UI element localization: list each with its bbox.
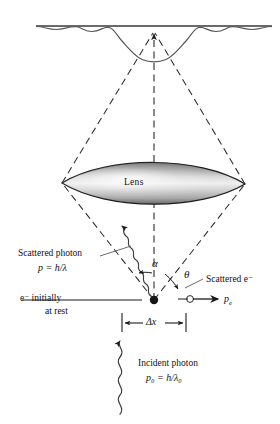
p-subscript: e	[229, 299, 232, 307]
ray-lens-right-to-apex	[155, 33, 245, 184]
theta-angle-label: θ	[184, 268, 189, 281]
alpha-angle-label: α	[152, 257, 158, 270]
heisenberg-microscope-figure: Lens Scattered photon p = h/λ α θ Scatte…	[0, 0, 280, 424]
theta-angle-arrow	[165, 274, 178, 289]
lens-highlight	[62, 162, 245, 204]
incident-photon-wave	[118, 341, 122, 414]
electron-at-rest-label-line1: e⁻ initially	[20, 293, 61, 304]
electron-vertex-dot	[150, 296, 158, 304]
scattered-photon-wave	[122, 226, 151, 296]
scattered-electron-label: Scattered e⁻	[206, 274, 253, 285]
scattered-electron-momentum-label: pe	[224, 293, 232, 307]
ray-lens-left-to-apex	[62, 33, 153, 183]
lens-label: Lens	[124, 177, 144, 188]
incident-photon-momentum: p₀ = h/λ₀	[146, 372, 182, 384]
scattered-photon-momentum: p = h/λ	[38, 262, 67, 274]
delta-x-label: Δx	[146, 316, 156, 328]
scattered-photon-label: Scattered photon	[18, 248, 82, 259]
alpha-angle-arrow	[139, 272, 152, 273]
electron-at-rest-label-line2: at rest	[45, 306, 68, 317]
incident-photon-label: Incident photon	[138, 358, 198, 369]
scattered-photon-leader	[100, 246, 131, 256]
